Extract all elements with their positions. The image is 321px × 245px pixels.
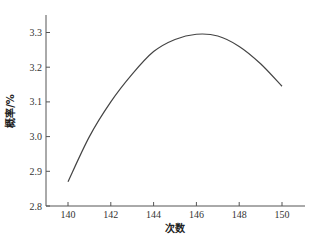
axes bbox=[46, 15, 305, 206]
probability-curve bbox=[68, 34, 282, 182]
x-tick-label: 150 bbox=[275, 209, 290, 220]
y-tick-label: 3.3 bbox=[30, 27, 43, 38]
x-tick-label: 140 bbox=[61, 209, 76, 220]
y-tick-label: 3.1 bbox=[30, 96, 43, 107]
x-ticks: 140142144146148150 bbox=[61, 202, 290, 220]
y-axis-title: 概率/% bbox=[4, 94, 16, 128]
y-ticks: 2.82.93.03.13.23.3 bbox=[30, 27, 51, 212]
x-tick-label: 146 bbox=[189, 209, 204, 220]
y-tick-label: 2.9 bbox=[30, 166, 43, 177]
y-tick-label: 3.2 bbox=[30, 62, 43, 73]
y-tick-label: 2.8 bbox=[30, 201, 43, 212]
x-tick-label: 144 bbox=[146, 209, 161, 220]
x-tick-label: 142 bbox=[103, 209, 118, 220]
x-axis-title: 次数 bbox=[165, 222, 186, 234]
x-tick-label: 148 bbox=[232, 209, 247, 220]
y-tick-label: 3.0 bbox=[30, 131, 43, 142]
line-chart: 2.82.93.03.13.23.3 140142144146148150 次数… bbox=[0, 0, 321, 245]
